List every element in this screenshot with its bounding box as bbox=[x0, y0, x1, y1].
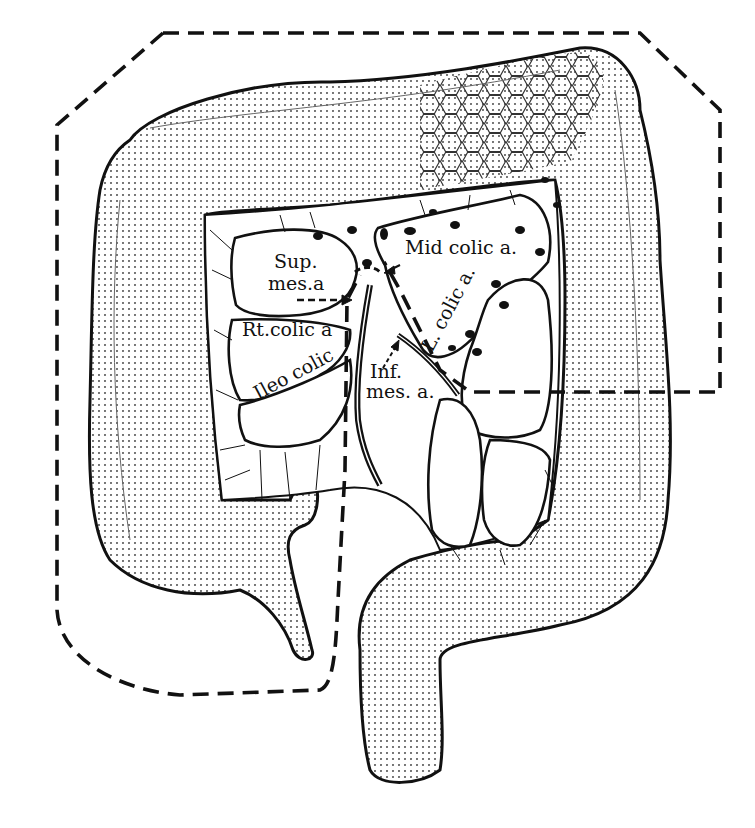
label-mid-colic: Mid colic a. bbox=[405, 236, 517, 258]
label-sup-mes-2: mes.a bbox=[268, 272, 324, 294]
colon-diagram: Sup. mes.a Mid colic a. Rt.colic a Ileo … bbox=[0, 0, 755, 828]
label-inf-mes: Inf. bbox=[370, 360, 402, 382]
label-inf-mes-2: mes. a. bbox=[366, 380, 434, 402]
label-sup-mes: Sup. bbox=[274, 250, 317, 272]
node-cell-desc bbox=[428, 399, 482, 547]
label-rt-colic: Rt.colic a bbox=[242, 318, 332, 340]
